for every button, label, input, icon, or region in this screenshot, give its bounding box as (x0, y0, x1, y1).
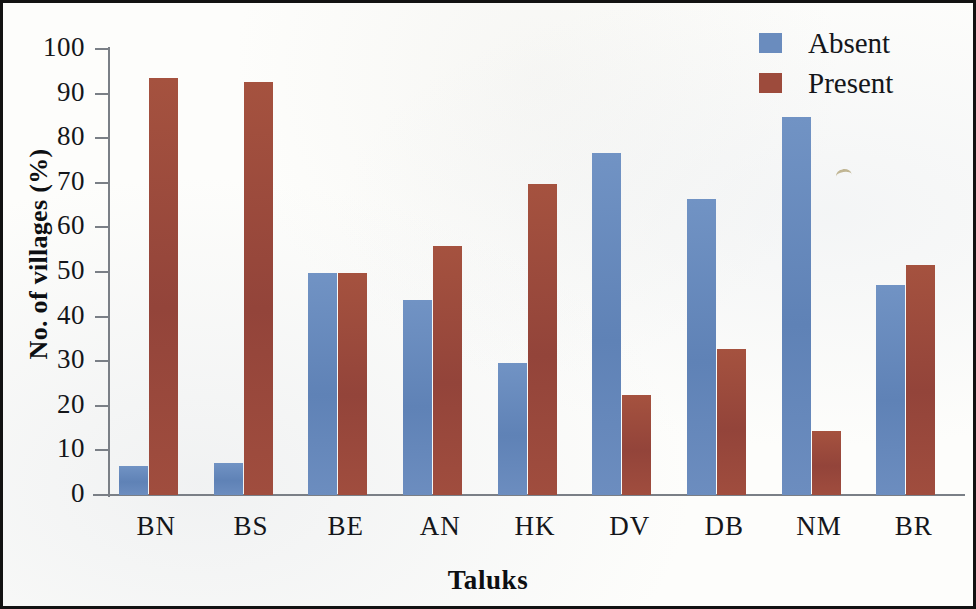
bar-absent-dv[interactable] (592, 153, 621, 495)
bar-group (677, 49, 772, 495)
legend-label: Absent (808, 28, 890, 58)
y-axis-tick (95, 137, 109, 139)
bar-present-bn[interactable] (149, 78, 178, 495)
bar-absent-bn[interactable] (119, 466, 148, 495)
y-axis-tick (95, 93, 109, 95)
bar-group (204, 49, 299, 495)
y-axis-tick (95, 360, 109, 362)
legend-item-present[interactable]: Present (759, 63, 959, 103)
bar-absent-br[interactable] (876, 285, 905, 496)
y-axis-tick (95, 48, 109, 50)
bar-absent-an[interactable] (403, 300, 432, 495)
y-axis-tick (95, 405, 109, 407)
legend-swatch-present-icon (759, 73, 782, 93)
chart-figure: 0102030405060708090100 No. of villages (… (0, 0, 976, 609)
bar-absent-bs[interactable] (214, 463, 243, 495)
bar-present-nm[interactable] (812, 431, 841, 495)
legend-swatch-absent-icon (759, 33, 782, 53)
bar-present-db[interactable] (717, 349, 746, 495)
bar-group (393, 49, 488, 495)
x-axis-title: Taluks (3, 565, 973, 596)
bar-present-br[interactable] (906, 265, 935, 495)
y-axis-tick (95, 316, 109, 318)
bar-group (109, 49, 204, 495)
bar-group (298, 49, 393, 495)
y-axis-tick (95, 449, 109, 451)
y-axis-tick-label: 0 (27, 480, 85, 507)
bar-present-an[interactable] (433, 246, 462, 495)
legend-label: Present (808, 68, 893, 98)
legend-item-absent[interactable]: Absent (759, 23, 959, 63)
y-axis-tick (95, 271, 109, 273)
chart-legend: AbsentPresent (759, 23, 959, 103)
bar-group (582, 49, 677, 495)
bar-group (866, 49, 961, 495)
y-axis-title: No. of villages (%) (24, 54, 54, 454)
bar-absent-be[interactable] (308, 273, 337, 495)
bar-group (488, 49, 583, 495)
bar-absent-nm[interactable] (782, 117, 811, 495)
bar-absent-db[interactable] (687, 199, 716, 495)
y-axis-tick (95, 226, 109, 228)
plot-area (109, 49, 961, 495)
bar-present-dv[interactable] (622, 395, 651, 495)
bar-absent-hk[interactable] (498, 363, 527, 495)
y-axis-tick (95, 494, 109, 496)
x-axis-tick-label-br: BR (854, 511, 974, 541)
bar-present-bs[interactable] (244, 82, 273, 495)
bar-present-hk[interactable] (528, 184, 557, 495)
bar-present-be[interactable] (338, 273, 367, 495)
y-axis-tick (95, 182, 109, 184)
bar-group (772, 49, 867, 495)
